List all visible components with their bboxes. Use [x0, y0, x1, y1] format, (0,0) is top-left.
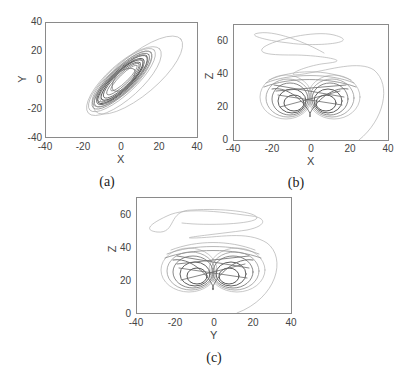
xlabel-a: X	[117, 153, 124, 165]
xtick-b-0: 0	[299, 144, 323, 154]
ytick-b-20: 20	[208, 102, 228, 112]
ylabel-c: Z	[106, 246, 118, 253]
caption-c: (c)	[194, 350, 234, 366]
attractor-yz-plot	[137, 198, 291, 313]
ytick-a-20: 20	[22, 46, 42, 56]
ytick-c-60: 60	[111, 210, 131, 220]
axes-a	[45, 22, 198, 138]
xtick-b-40: 40	[376, 144, 400, 154]
xtick-a-40: 40	[185, 142, 209, 152]
ytick-a-40: 40	[22, 17, 42, 27]
attractor-xy-plot	[46, 23, 197, 137]
xtick-a-0: 0	[109, 142, 133, 152]
xtick-a-20: 20	[147, 142, 171, 152]
caption-a: (a)	[87, 174, 127, 190]
xtick-b-neg40: -40	[221, 144, 245, 154]
xtick-b-neg20: -20	[260, 144, 284, 154]
attractor-xz-plot	[234, 25, 388, 140]
xtick-b-20: 20	[338, 144, 362, 154]
ytick-c-20: 20	[111, 276, 131, 286]
ytick-a-neg20: -20	[22, 104, 42, 114]
axes-b	[233, 24, 389, 141]
ytick-b-60: 60	[208, 36, 228, 46]
xlabel-c: Y	[210, 329, 217, 341]
xlabel-b: X	[307, 155, 314, 167]
ylabel-b: Z	[203, 73, 215, 80]
xtick-a-neg20: -20	[71, 142, 95, 152]
xtick-c-neg20: -20	[163, 318, 187, 328]
xtick-c-0: 0	[202, 318, 226, 328]
axes-c	[136, 197, 292, 314]
xtick-c-20: 20	[241, 318, 265, 328]
caption-b: (b)	[276, 175, 316, 191]
xtick-a-neg40: -40	[33, 142, 57, 152]
xtick-c-neg40: -40	[124, 318, 148, 328]
xtick-c-40: 40	[279, 318, 303, 328]
ylabel-a: Y	[16, 75, 28, 82]
